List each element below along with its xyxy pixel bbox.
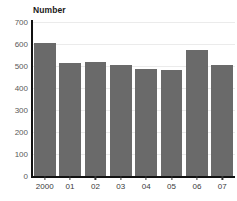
x-tick-label: 07 xyxy=(210,182,235,196)
bar-series xyxy=(32,22,235,176)
y-tick-label: 700 xyxy=(15,18,28,27)
bar xyxy=(135,69,157,176)
x-axis-ticks xyxy=(32,176,235,180)
bar xyxy=(34,43,56,176)
bar xyxy=(85,62,107,176)
bar xyxy=(186,50,208,176)
x-axis-labels: 200001020304050607 xyxy=(32,182,235,196)
bar-slot xyxy=(184,22,209,176)
y-tick-label: 400 xyxy=(15,84,28,93)
x-tick-slot xyxy=(159,176,184,180)
chart-title-clipped xyxy=(0,0,237,2)
bar xyxy=(161,70,183,176)
x-tick-label: 04 xyxy=(134,182,159,196)
x-tick-mark xyxy=(120,176,121,180)
bar-slot xyxy=(57,22,82,176)
x-tick-label: 05 xyxy=(159,182,184,196)
x-tick-label: 03 xyxy=(108,182,133,196)
x-tick-label: 02 xyxy=(83,182,108,196)
bar-slot xyxy=(210,22,235,176)
y-tick-label: 200 xyxy=(15,128,28,137)
bar-slot xyxy=(108,22,133,176)
x-tick-label: 06 xyxy=(184,182,209,196)
bar-slot xyxy=(83,22,108,176)
bar xyxy=(211,65,233,176)
x-tick-slot xyxy=(57,176,82,180)
y-axis-line xyxy=(31,20,33,177)
x-tick-mark xyxy=(196,176,197,180)
x-tick-mark xyxy=(222,176,223,180)
x-tick-mark xyxy=(69,176,70,180)
x-tick-slot xyxy=(184,176,209,180)
y-tick-label: 100 xyxy=(15,150,28,159)
bar-slot xyxy=(32,22,57,176)
y-tick-label: 500 xyxy=(15,62,28,71)
plot-area: 0100200300400500600700 xyxy=(32,22,235,176)
bar-slot xyxy=(134,22,159,176)
bar-slot xyxy=(159,22,184,176)
x-tick-slot xyxy=(210,176,235,180)
x-tick-slot xyxy=(32,176,57,180)
x-tick-slot xyxy=(108,176,133,180)
x-tick-mark xyxy=(95,176,96,180)
bar xyxy=(59,63,81,176)
bar-chart: Number 0100200300400500600700 2000010203… xyxy=(0,0,237,201)
x-tick-mark xyxy=(44,176,45,180)
x-tick-slot xyxy=(134,176,159,180)
y-tick-label: 300 xyxy=(15,106,28,115)
y-tick-label: 0 xyxy=(24,172,28,181)
bar xyxy=(110,65,132,176)
x-tick-mark xyxy=(171,176,172,180)
x-tick-mark xyxy=(146,176,147,180)
x-tick-slot xyxy=(83,176,108,180)
y-tick-label: 600 xyxy=(15,40,28,49)
y-axis-title: Number xyxy=(33,5,66,15)
x-tick-label: 2000 xyxy=(32,182,57,196)
x-tick-label: 01 xyxy=(57,182,82,196)
